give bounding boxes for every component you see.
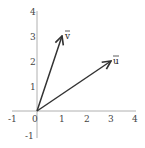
vector-plot: -1 0 1 2 3 4 -1 1 2 3 4 u v <box>0 0 145 148</box>
vector-u-arrow <box>37 61 111 111</box>
y-tick-label: -1 <box>25 131 34 141</box>
y-tick-label: 4 <box>30 7 36 17</box>
vector-v-arrow <box>37 36 62 111</box>
y-tick-label: 1 <box>30 82 36 92</box>
x-tick-label: 1 <box>59 114 65 124</box>
x-tick-label: 4 <box>132 114 138 124</box>
y-tick-label: 3 <box>30 32 36 42</box>
x-tick-label: -1 <box>8 114 17 124</box>
y-tick-label: 2 <box>30 57 36 67</box>
svg-text:u: u <box>113 56 119 66</box>
vector-v-label: v <box>64 31 71 41</box>
x-tick-label: 2 <box>84 114 90 124</box>
vector-u-label: u <box>113 56 119 66</box>
svg-text:v: v <box>64 31 71 41</box>
x-tick-label: 3 <box>108 114 114 124</box>
origin-label: 0 <box>32 114 38 124</box>
